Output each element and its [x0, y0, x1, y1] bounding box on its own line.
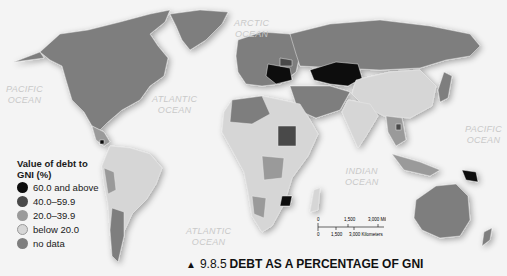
- ocean-label-arctic: ARCTICOCEAN: [234, 18, 269, 40]
- swatch-no-data: [17, 238, 28, 249]
- north-america: [40, 10, 170, 130]
- figure-number: 9.8.5: [200, 257, 227, 271]
- swatch-20-39: [17, 210, 28, 221]
- figure-caption: ▲9.8.5DEBT AS A PERCENTAGE OF GNI: [186, 257, 423, 271]
- swatch-60plus: [17, 182, 28, 193]
- scale-mi-0: 0: [317, 217, 320, 222]
- swatch-40-59: [17, 196, 28, 207]
- swatch-below-20: [17, 224, 28, 235]
- russia: [290, 20, 480, 70]
- legend: Value of debt to GNI (%) 60.0 and above …: [17, 158, 99, 250]
- legend-item-20-39: 20.0–39.9: [17, 208, 99, 222]
- legend-title: Value of debt to GNI (%): [17, 158, 97, 180]
- legend-item-60plus: 60.0 and above: [17, 180, 99, 194]
- ocean-label-indian: INDIANOCEAN: [345, 166, 379, 188]
- scale-km-1500: 1,500: [331, 232, 343, 237]
- scale-km-0: 0: [317, 232, 320, 237]
- legend-item-no-data: no data: [17, 236, 99, 250]
- figure-title: DEBT AS A PERCENTAGE OF GNI: [230, 257, 424, 271]
- scale-mi-3000: 3,000 Miles: [368, 217, 386, 222]
- ocean-label-atlantic-north: ATLANTICOCEAN: [152, 94, 197, 116]
- ocean-label-atlantic-south: ATLANTICOCEAN: [186, 226, 231, 248]
- australia: [414, 184, 470, 238]
- scale-km-3000: 3,000 Kilometers: [349, 232, 384, 237]
- scale-mi-1500: 1,500: [344, 217, 356, 222]
- legend-item-40-59: 40.0–59.9: [17, 194, 99, 208]
- legend-item-below-20: below 20.0: [17, 222, 99, 236]
- greenland: [170, 10, 228, 50]
- scale-bar: 0 1,500 3,000 Miles 0 1,500 3,000 Kilome…: [316, 216, 386, 238]
- triangle-marker-icon: ▲: [186, 259, 196, 270]
- ocean-label-pacific-east: PACIFICOCEAN: [465, 124, 502, 146]
- ocean-label-pacific-west: PACIFICOCEAN: [6, 84, 43, 106]
